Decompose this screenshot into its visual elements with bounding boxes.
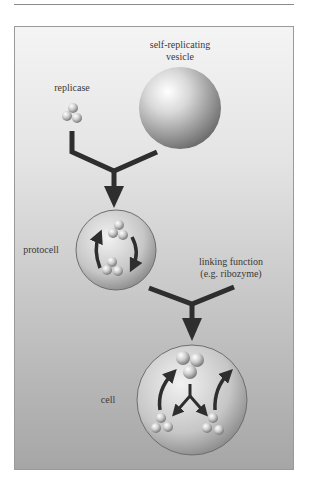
replicase-label: replicase: [42, 82, 102, 94]
replicase-molecule: [62, 103, 82, 123]
cell-label: cell: [96, 394, 120, 406]
linking-label-line1: linking function: [186, 256, 276, 268]
linking-function-label: linking function (e.g. ribozyme): [186, 256, 276, 280]
protocell-label: protocell: [18, 244, 64, 256]
cell-sphere: [137, 345, 247, 455]
linking-label-line2: (e.g. ribozyme): [186, 268, 276, 280]
arrowhead-1: [104, 186, 124, 208]
merge-arrow-1: [72, 131, 157, 190]
arrowhead-2: [182, 318, 202, 341]
vesicle-label: self-replicating vesicle: [140, 39, 220, 63]
vesicle-sphere: [139, 67, 221, 149]
merge-arrow-2: [149, 287, 234, 322]
protocell-sphere: [76, 210, 156, 290]
vesicle-label-line2: vesicle: [140, 51, 220, 63]
vesicle-label-line1: self-replicating: [140, 39, 220, 51]
diagram-graphics: [0, 0, 310, 486]
